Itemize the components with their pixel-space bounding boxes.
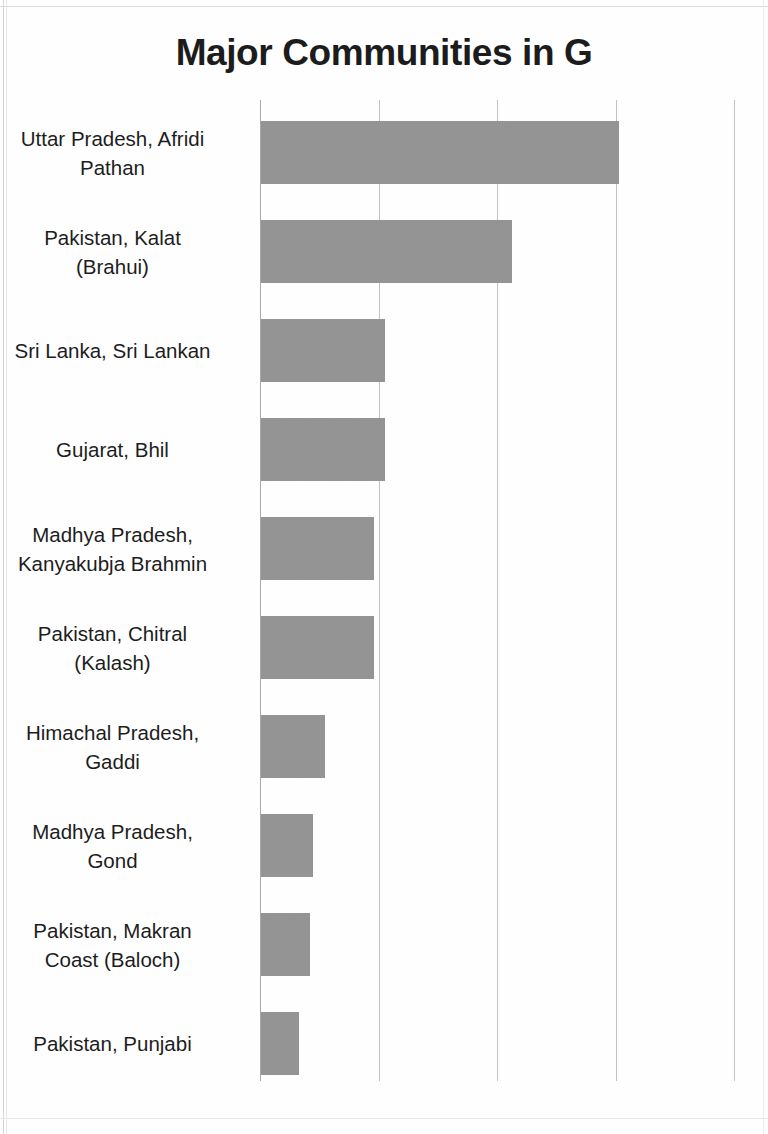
category-label-line: Pakistan, Kalat (0, 223, 235, 252)
category-label-line: Madhya Pradesh, (0, 520, 235, 549)
category-label: Pakistan, Kalat(Brahui) (0, 223, 235, 281)
category-label: Madhya Pradesh,Gond (0, 817, 235, 875)
bar-chart-plot-area: Uttar Pradesh, AfridiPathanPakistan, Kal… (0, 0, 768, 1134)
category-label: Himachal Pradesh,Gaddi (0, 718, 235, 776)
category-label-line: Pakistan, Punjabi (0, 1029, 235, 1058)
category-label-line: (Kalash) (0, 648, 235, 677)
category-label-line: Gaddi (0, 747, 235, 776)
bar-row: Himachal Pradesh,Gaddi (0, 715, 768, 778)
category-label-line: Kanyakubja Brahmin (0, 549, 235, 578)
category-label-line: Pakistan, Makran (0, 916, 235, 945)
category-label-line: Gujarat, Bhil (0, 435, 235, 464)
category-label-line: Sri Lanka, Sri Lankan (0, 336, 235, 365)
bar (261, 913, 310, 976)
category-label: Sri Lanka, Sri Lankan (0, 336, 235, 365)
category-label: Pakistan, Punjabi (0, 1029, 235, 1058)
category-label-line: (Brahui) (0, 252, 235, 281)
bar-row: Pakistan, Kalat(Brahui) (0, 220, 768, 283)
category-label: Pakistan, MakranCoast (Baloch) (0, 916, 235, 974)
category-label-line: Pakistan, Chitral (0, 619, 235, 648)
category-label: Madhya Pradesh,Kanyakubja Brahmin (0, 520, 235, 578)
bar-row: Madhya Pradesh,Gond (0, 814, 768, 877)
bar-row: Pakistan, MakranCoast (Baloch) (0, 913, 768, 976)
category-label: Gujarat, Bhil (0, 435, 235, 464)
bar (261, 517, 374, 580)
category-label-line: Pathan (0, 153, 235, 182)
bar (261, 319, 385, 382)
category-label-line: Gond (0, 846, 235, 875)
scanned-page: Major Communities in G Uttar Pradesh, Af… (0, 0, 768, 1134)
category-label: Uttar Pradesh, AfridiPathan (0, 124, 235, 182)
category-label-line: Himachal Pradesh, (0, 718, 235, 747)
category-label-line: Coast (Baloch) (0, 945, 235, 974)
bar-row: Uttar Pradesh, AfridiPathan (0, 121, 768, 184)
bar-row: Gujarat, Bhil (0, 418, 768, 481)
bar (261, 220, 512, 283)
bar (261, 418, 385, 481)
category-label-line: Uttar Pradesh, Afridi (0, 124, 235, 153)
bar (261, 1012, 299, 1075)
bar (261, 715, 325, 778)
bar-row: Pakistan, Punjabi (0, 1012, 768, 1075)
bar-row: Pakistan, Chitral(Kalash) (0, 616, 768, 679)
bar-row: Sri Lanka, Sri Lankan (0, 319, 768, 382)
category-label-line: Madhya Pradesh, (0, 817, 235, 846)
bar (261, 814, 313, 877)
bar-row: Madhya Pradesh,Kanyakubja Brahmin (0, 517, 768, 580)
category-label: Pakistan, Chitral(Kalash) (0, 619, 235, 677)
bar (261, 616, 374, 679)
bar (261, 121, 619, 184)
